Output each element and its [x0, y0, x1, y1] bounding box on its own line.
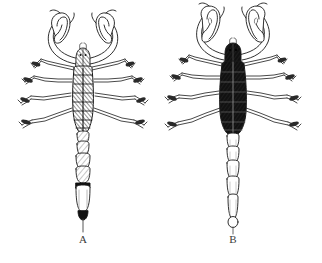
scorpion-b-mesosoma: [220, 61, 247, 136]
panel-label-b: B: [221, 233, 245, 245]
scorpion-b-metasoma: [227, 133, 239, 234]
scorpion-figure-illustration: [0, 0, 322, 263]
panel-label-a: A: [71, 233, 95, 245]
figure-root: A B: [0, 0, 322, 263]
scorpion-a-mesosoma: [73, 66, 94, 134]
